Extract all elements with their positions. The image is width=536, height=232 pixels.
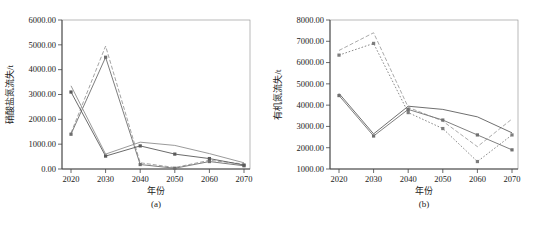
square-marker [69, 90, 72, 93]
markers-series-4-marker [69, 90, 245, 166]
y-tick-label: 2000.00 [296, 143, 324, 153]
line-series-1-dashed [71, 46, 244, 167]
x-tick-label: 2020 [331, 174, 348, 184]
dual-line-chart-figure: 0.001000.002000.003000.004000.005000.006… [0, 0, 536, 232]
y-tick-label: 1000.00 [28, 139, 56, 149]
chart-b-canvas: 1000.002000.003000.004000.005000.006000.… [268, 0, 536, 232]
markers-series-2-marker [337, 42, 513, 163]
markers-series-2-marker [69, 56, 245, 170]
x-tick-label: 2040 [400, 174, 417, 184]
x-tick-label: 2030 [365, 174, 382, 184]
x-axis-title: 年份 [415, 185, 433, 196]
x-axis-title: 年份 [147, 185, 165, 196]
square-marker [337, 94, 340, 97]
y-tick-label: 6000.00 [296, 57, 324, 67]
y-tick-label: 3000.00 [296, 121, 324, 131]
y-tick-label: 7000.00 [296, 36, 324, 46]
square-marker [337, 54, 340, 57]
y-tick-label: 4000.00 [28, 64, 56, 74]
square-marker [372, 134, 375, 137]
square-marker [173, 167, 176, 170]
x-tick-label: 2050 [434, 174, 451, 184]
square-marker [441, 127, 444, 130]
line-series-3-plain [71, 86, 244, 163]
x-tick-label: 2050 [166, 174, 183, 184]
line-series-4-marker [71, 92, 244, 165]
line-series-2-marker [71, 57, 244, 168]
x-tick-label: 2070 [504, 174, 521, 184]
plot-frame [330, 20, 518, 169]
y-tick-labels: 0.001000.002000.003000.004000.005000.006… [28, 15, 62, 174]
chart-panel-a: 0.001000.002000.003000.004000.005000.006… [0, 0, 268, 232]
y-tick-label: 5000.00 [296, 79, 324, 89]
subplot-label: (a) [151, 199, 161, 209]
square-marker [476, 160, 479, 163]
square-marker [372, 42, 375, 45]
square-marker [139, 144, 142, 147]
x-tick-label: 2020 [63, 174, 80, 184]
square-marker [510, 148, 513, 151]
y-axis-title: 有机氮流失/t [272, 69, 283, 120]
square-marker [407, 108, 410, 111]
y-tick-label: 5000.00 [28, 40, 56, 50]
x-tick-label: 2060 [469, 174, 486, 184]
y-tick-label: 3000.00 [28, 89, 56, 99]
square-marker [510, 133, 513, 136]
square-marker [242, 163, 245, 166]
line-series-4-marker [339, 96, 512, 150]
y-tick-label: 0.00 [41, 164, 56, 174]
square-marker [104, 154, 107, 157]
line-series-2-marker [339, 43, 512, 161]
line-series-1-dashed [339, 33, 512, 147]
x-tick-labels: 202020302040205020602070 [331, 169, 521, 184]
square-marker [407, 111, 410, 114]
x-tick-label: 2060 [201, 174, 218, 184]
line-series-3-plain [339, 93, 512, 133]
square-marker [139, 163, 142, 166]
square-marker [173, 153, 176, 156]
chart-panel-b: 1000.002000.003000.004000.005000.006000.… [268, 0, 536, 232]
x-tick-labels: 202020302040205020602070 [63, 169, 253, 184]
square-marker [208, 157, 211, 160]
x-tick-label: 2040 [132, 174, 149, 184]
y-axis-title: 硝酸盐氮流失/t [4, 65, 15, 125]
x-tick-label: 2030 [97, 174, 114, 184]
y-tick-label: 8000.00 [296, 15, 324, 25]
square-marker [441, 118, 444, 121]
y-tick-label: 4000.00 [296, 100, 324, 110]
square-marker [104, 56, 107, 59]
y-tick-label: 2000.00 [28, 114, 56, 124]
y-tick-label: 6000.00 [28, 15, 56, 25]
subplot-label: (b) [419, 199, 430, 209]
square-marker [69, 133, 72, 136]
y-tick-labels: 1000.002000.003000.004000.005000.006000.… [296, 15, 330, 174]
plot-frame [62, 20, 250, 169]
x-tick-label: 2070 [236, 174, 253, 184]
square-marker [476, 133, 479, 136]
y-tick-label: 1000.00 [296, 164, 324, 174]
square-marker [208, 160, 211, 163]
chart-a-canvas: 0.001000.002000.003000.004000.005000.006… [0, 0, 268, 232]
